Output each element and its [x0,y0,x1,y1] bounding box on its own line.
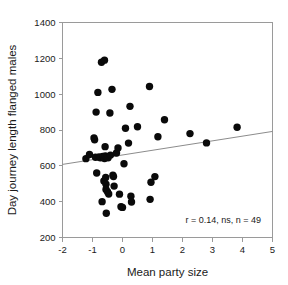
data-point [91,136,98,143]
data-point [203,139,210,146]
data-point [233,124,240,131]
y-tick-label: 1000 [34,89,55,100]
data-point [122,125,129,132]
y-axis-ticks [59,23,63,238]
x-tick-label: 0 [120,244,125,255]
y-tick-label: 400 [40,196,56,207]
chart-canvas: 200400600800100012001400 -2-1012345 r = … [0,0,288,285]
x-tick-label: -2 [58,244,66,255]
data-point [103,210,110,217]
data-point [120,160,127,167]
y-tick-label: 800 [40,124,56,135]
y-tick-label: 200 [40,232,56,243]
data-point [110,173,117,180]
data-point [119,204,126,211]
data-point [108,86,115,93]
data-point [93,169,100,176]
data-point [161,116,168,123]
x-axis-tick-labels: -2-1012345 [58,244,275,255]
data-point [94,89,101,96]
data-point [146,196,153,203]
data-point [151,173,158,180]
data-point [98,198,105,205]
data-point [146,83,153,90]
data-point [125,139,132,146]
data-point [116,190,123,197]
data-point [106,109,113,116]
x-tick-label: 1 [150,244,155,255]
x-tick-label: 4 [240,244,245,255]
x-tick-label: 2 [180,244,185,255]
y-tick-label: 600 [40,160,56,171]
plot-border [63,23,273,238]
data-point [105,190,112,197]
data-point [102,174,109,181]
x-tick-label: -1 [88,244,96,255]
data-point [101,143,108,150]
stats-annotation: r = 0.14, ns, n = 49 [185,215,261,225]
data-point [101,56,108,63]
y-tick-label: 1400 [34,17,55,28]
data-points-group [82,56,241,217]
scatter-plot-figure: 200400600800100012001400 -2-1012345 r = … [0,0,288,285]
x-axis-label: Mean party size [127,266,208,278]
data-point [134,123,141,130]
y-tick-label: 1200 [34,53,55,64]
data-point [154,133,161,140]
y-axis-label: Day journey length flanged males [6,44,18,215]
x-tick-label: 3 [210,244,215,255]
x-tick-label: 5 [270,244,275,255]
data-point [186,130,193,137]
y-axis-tick-labels: 200400600800100012001400 [34,17,55,243]
data-point [126,103,133,110]
data-point [128,198,135,205]
x-axis-ticks [63,238,273,242]
plot-frame [63,23,273,238]
data-point [110,182,117,189]
data-point [92,108,99,115]
data-point [114,144,121,151]
